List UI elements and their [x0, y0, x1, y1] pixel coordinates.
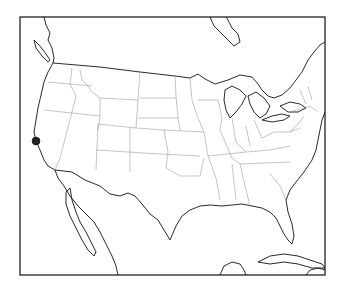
location-marker[interactable] [32, 137, 40, 145]
us-map [0, 0, 345, 290]
map-frame [20, 17, 325, 275]
